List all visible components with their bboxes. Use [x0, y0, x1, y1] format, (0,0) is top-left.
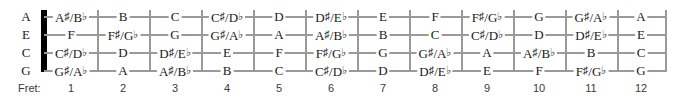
fret-line-1 — [97, 10, 99, 72]
note-g-3: A♯/B♭ — [157, 63, 193, 79]
string-label-4: G — [18, 64, 34, 77]
note-e-9: C♯/D♭ — [469, 27, 505, 43]
string-label-2: E — [18, 28, 34, 41]
string-label-3: C — [18, 46, 34, 59]
fret-number-3: 3 — [172, 82, 178, 94]
fret-number-6: 6 — [328, 82, 334, 94]
note-e-3: G — [168, 28, 181, 42]
note-a-12: A — [634, 10, 647, 24]
note-a-8: F — [429, 10, 440, 24]
note-c-9: A — [480, 46, 493, 60]
fret-number-7: 7 — [380, 82, 386, 94]
note-a-9: F♯/G♭ — [470, 9, 505, 25]
fret-number-5: 5 — [276, 82, 282, 94]
note-c-8: G♯/A♭ — [417, 45, 454, 61]
fret-number-9: 9 — [484, 82, 490, 94]
note-a-10: G — [532, 10, 545, 24]
fret-number-10: 10 — [533, 82, 545, 94]
note-g-10: F — [533, 64, 544, 78]
note-a-7: E — [377, 10, 389, 24]
note-g-7: D — [376, 64, 389, 78]
fret-line-4 — [253, 10, 255, 72]
note-g-5: C — [273, 64, 286, 78]
fret-number-11: 11 — [585, 82, 596, 94]
note-e-11: D♯/E♭ — [573, 27, 608, 43]
note-a-11: G♯/A♭ — [573, 9, 610, 25]
fret-line-9 — [513, 10, 515, 72]
note-e-7: B — [377, 28, 390, 42]
note-c-1: C♯/D♭ — [53, 45, 89, 61]
fret-line-11 — [617, 10, 619, 72]
fret-line-12 — [665, 10, 667, 72]
note-c-12: C — [635, 46, 648, 60]
note-a-1: A♯/B♭ — [53, 9, 89, 25]
note-g-2: A — [116, 64, 129, 78]
note-c-4: E — [221, 46, 233, 60]
fret-axis-label: Fret: — [18, 82, 41, 94]
note-g-9: E — [481, 64, 493, 78]
note-g-4: B — [221, 64, 234, 78]
fret-line-5 — [305, 10, 307, 72]
note-a-6: D♯/E♭ — [313, 9, 348, 25]
string-label-1: A — [18, 10, 34, 23]
fret-line-10 — [565, 10, 567, 72]
fretboard-diagram: A E C G A♯/B♭ B C C♯/D♭ D D♯/E♭ E F F♯/G… — [0, 0, 691, 102]
note-g-11: F♯/G♭ — [574, 63, 609, 79]
note-c-10: A♯/B♭ — [521, 45, 557, 61]
fret-line-2 — [149, 10, 151, 72]
fret-number-4: 4 — [224, 82, 230, 94]
note-e-1: F — [65, 28, 76, 42]
note-a-3: C — [169, 10, 182, 24]
note-g-8: D♯/E♭ — [417, 63, 452, 79]
fret-line-8 — [461, 10, 463, 72]
string-line-c — [44, 52, 666, 54]
fret-line-6 — [357, 10, 359, 72]
note-e-4: G♯/A♭ — [209, 27, 246, 43]
note-e-2: F♯/G♭ — [106, 27, 141, 43]
note-e-6: A♯/B♭ — [313, 27, 349, 43]
note-e-12: E — [635, 28, 647, 42]
note-e-8: C — [429, 28, 442, 42]
note-c-3: D♯/E♭ — [157, 45, 192, 61]
fret-line-7 — [409, 10, 411, 72]
note-e-5: A — [272, 28, 285, 42]
fret-number-2: 2 — [120, 82, 126, 94]
note-c-11: B — [585, 46, 598, 60]
note-a-4: C♯/D♭ — [209, 9, 245, 25]
note-g-6: C♯/D♭ — [313, 63, 349, 79]
note-g-12: G — [634, 64, 647, 78]
fret-line-3 — [201, 10, 203, 72]
note-c-7: G — [376, 46, 389, 60]
note-c-6: F♯/G♭ — [314, 45, 349, 61]
note-c-2: D — [116, 46, 129, 60]
note-e-10: D — [532, 28, 545, 42]
fret-number-1: 1 — [68, 82, 74, 94]
fret-number-8: 8 — [432, 82, 438, 94]
note-a-2: B — [117, 10, 130, 24]
fret-number-12: 12 — [635, 82, 647, 94]
note-a-5: D — [272, 10, 285, 24]
note-c-5: F — [273, 46, 284, 60]
nut — [41, 10, 47, 72]
note-g-1: G♯/A♭ — [53, 63, 90, 79]
